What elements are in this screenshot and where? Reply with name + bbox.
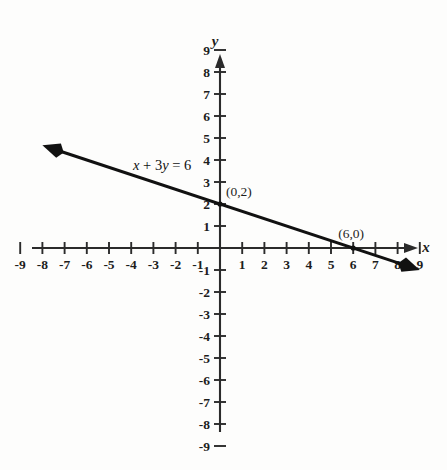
x-tick-label: -6	[81, 257, 92, 272]
x-tick-label: -2	[170, 257, 181, 272]
x-tick-label: -7	[59, 257, 70, 272]
x-axis-label: x	[421, 239, 430, 255]
x-tick-label: 2	[261, 257, 268, 272]
x-tick-label: -8	[37, 257, 48, 272]
point-label: (0,2)	[226, 184, 252, 199]
y-tick-label: 4	[203, 153, 210, 168]
y-tick-label: -8	[199, 417, 210, 432]
point-marker	[351, 245, 356, 250]
y-tick-label: 9	[203, 43, 210, 58]
point-marker	[217, 201, 222, 206]
x-tick-label: 5	[328, 257, 335, 272]
axes-group	[32, 54, 418, 432]
x-tick-label: 4	[305, 257, 312, 272]
line-shaft	[51, 148, 411, 267]
y-axis-arrowhead	[215, 54, 225, 68]
y-tick-label: 8	[203, 65, 210, 80]
y-tick-label: 5	[203, 131, 210, 146]
annotated-points-group: (0,2)(6,0)	[217, 184, 364, 251]
coordinate-plane-graph: x y -9-8-7-6-5-4-3-2-1123456789 98765432…	[0, 0, 447, 470]
y-tick-label: 1	[203, 219, 210, 234]
y-tick-label: -3	[199, 307, 210, 322]
y-tick-label: -5	[199, 351, 210, 366]
y-tick-label: -1	[199, 263, 210, 278]
y-axis-label: y	[210, 33, 219, 49]
y-tick-label: -2	[199, 285, 210, 300]
y-tick-label: 7	[203, 87, 210, 102]
y-tick-label: 6	[203, 109, 210, 124]
x-tick-label: 1	[239, 257, 246, 272]
x-tick-label: -3	[148, 257, 159, 272]
y-tick-label: -4	[199, 329, 210, 344]
point-label: (6,0)	[338, 226, 364, 241]
x-axis-arrowhead	[404, 243, 418, 253]
x-tick-label: 6	[350, 257, 357, 272]
x-tick-label: 3	[283, 257, 290, 272]
x-tick-label: -4	[126, 257, 137, 272]
x-tick-label: -9	[15, 257, 26, 272]
equation-label: x + 3y = 6	[132, 157, 191, 173]
y-tick-label: -9	[199, 439, 210, 454]
line-series-group	[42, 144, 419, 272]
y-tick-label: -6	[199, 373, 210, 388]
x-tick-label: 7	[372, 257, 379, 272]
x-tick-label: -5	[103, 257, 114, 272]
line-start-arrowhead	[42, 144, 63, 158]
y-tick-label: 3	[203, 175, 210, 190]
graph-svg: x y -9-8-7-6-5-4-3-2-1123456789 98765432…	[0, 0, 447, 470]
y-tick-label: -7	[199, 395, 210, 410]
